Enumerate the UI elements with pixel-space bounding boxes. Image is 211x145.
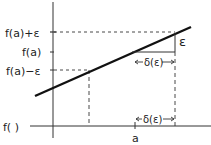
label-epsilon: ε	[179, 34, 186, 49]
label-f-a-plus-eps: f(a)+ε	[5, 27, 39, 40]
epsilon-delta-diagram: f(a)+ε f(a) f(a)−ε f( ) a ε δ(ε) δ(ε)	[0, 0, 211, 145]
label-a: a	[132, 132, 139, 145]
function-line	[35, 27, 191, 96]
label-delta-lower: δ(ε)	[143, 114, 162, 125]
label-f-a: f(a)	[22, 46, 41, 59]
label-f-a-minus-eps: f(a)−ε	[6, 65, 40, 78]
label-x-axis-f: f( )	[3, 121, 19, 134]
diagram-svg: f(a)+ε f(a) f(a)−ε f( ) a ε δ(ε) δ(ε)	[0, 0, 211, 145]
label-delta-upper: δ(ε)	[144, 57, 163, 68]
